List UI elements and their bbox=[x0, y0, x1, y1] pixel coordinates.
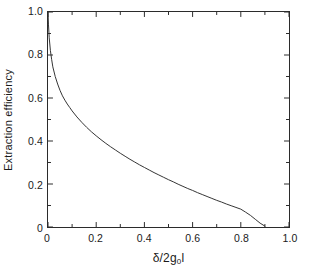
x-axis-title: δ/2g0l bbox=[153, 251, 185, 265]
plot-canvas bbox=[48, 12, 289, 227]
axis-ticks bbox=[48, 12, 289, 227]
figure-extraction-efficiency-plot: Extraction efficiency 00.20.40.60.81.0 0… bbox=[0, 0, 309, 275]
data-curve bbox=[48, 12, 265, 226]
y-tick-label: 0.2 bbox=[17, 180, 43, 190]
y-tick-label: 1.0 bbox=[17, 6, 43, 16]
x-tick-label: 0.8 bbox=[221, 232, 261, 244]
x-axis-title-prefix: δ/2g bbox=[153, 251, 177, 265]
x-axis-tick-labels: 00.20.40.60.81.0 bbox=[47, 232, 290, 248]
x-tick-label: 0.6 bbox=[173, 232, 213, 244]
x-axis-title-subscript: 0 bbox=[177, 257, 182, 266]
x-tick-label: 1.0 bbox=[270, 232, 309, 244]
y-tick-label: 0.6 bbox=[17, 93, 43, 103]
x-tick-label: 0.4 bbox=[124, 232, 164, 244]
plot-area bbox=[47, 11, 290, 228]
y-tick-label: 0.4 bbox=[17, 136, 43, 146]
x-axis-title-container: δ/2g0l bbox=[47, 248, 290, 266]
y-tick-label: 0.8 bbox=[17, 49, 43, 59]
x-tick-label: 0.2 bbox=[76, 232, 116, 244]
y-axis-tick-labels: 00.20.40.60.81.0 bbox=[12, 11, 43, 228]
x-axis-title-suffix: l bbox=[181, 251, 184, 265]
x-tick-label: 0 bbox=[27, 232, 67, 244]
